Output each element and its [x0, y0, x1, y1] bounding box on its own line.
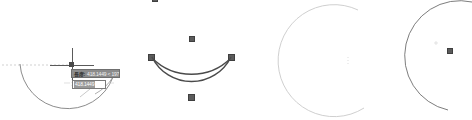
- right-panel[interactable]: 指定円弧的端点 或 [角度(A)/弦长(L)]:: [236, 0, 472, 120]
- large-preview-arc: [278, 5, 364, 117]
- grip-arc-start[interactable]: [148, 54, 155, 61]
- grip-start[interactable]: [152, 0, 158, 2]
- left-panel[interactable]: 長度: 418.1449 < 197° 418.1449: [0, 0, 236, 120]
- dynamic-input-label: 長度:: [74, 70, 85, 77]
- dynamic-input-field-value: 418.1449: [74, 81, 95, 88]
- cad-canvas[interactable]: 長度: 418.1449 < 197° 418.1449: [0, 0, 472, 120]
- dynamic-input-value: 418.1449 < 197°: [87, 71, 120, 77]
- dynamic-input-field[interactable]: 418.1449: [72, 80, 106, 89]
- left-panel-geometry: [0, 0, 236, 120]
- grip-arc-center[interactable]: [189, 36, 195, 42]
- grip-arc-end[interactable]: [228, 54, 235, 61]
- grip-arc-mid[interactable]: [188, 94, 195, 101]
- right-edge-arc: [405, 1, 472, 110]
- right-panel-geometry: [236, 0, 472, 120]
- dynamic-input-tooltip: 長度: 418.1449 < 197°: [71, 69, 120, 78]
- leader-line: [80, 89, 90, 97]
- grip-right-arc[interactable]: [447, 48, 453, 54]
